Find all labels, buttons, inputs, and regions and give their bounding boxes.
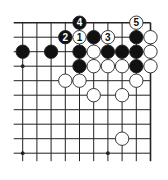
stone-disc <box>101 59 114 72</box>
stone-disc <box>73 74 86 87</box>
white-stone <box>115 59 128 72</box>
black-stone <box>73 59 86 72</box>
black-stone <box>87 31 100 44</box>
white-stone <box>115 89 128 102</box>
white-stone <box>87 45 100 58</box>
stone-disc <box>130 59 143 72</box>
stone-disc <box>101 45 114 58</box>
black-stone <box>16 45 29 58</box>
stone-disc <box>144 45 157 58</box>
white-stone-move-5: 5 <box>130 16 143 29</box>
stone-disc <box>144 59 157 72</box>
stone-disc <box>73 45 86 58</box>
white-stone-move-3: 3 <box>101 31 114 44</box>
stone-disc <box>59 74 72 87</box>
stone-disc <box>144 31 157 44</box>
star-point <box>21 64 25 68</box>
stone-disc <box>44 45 57 58</box>
white-stone <box>101 59 114 72</box>
white-stone <box>144 45 157 58</box>
black-stone <box>115 45 128 58</box>
black-stone <box>130 59 143 72</box>
move-number-label: 3 <box>105 32 111 43</box>
stone-disc <box>130 31 143 44</box>
stone-disc <box>87 31 100 44</box>
black-stone-move-4: 4 <box>73 16 86 29</box>
white-stone <box>130 74 143 87</box>
white-stone <box>115 132 128 145</box>
stone-disc <box>87 45 100 58</box>
move-number-label: 4 <box>77 17 83 28</box>
move-number-label: 1 <box>77 32 83 43</box>
black-stone <box>130 45 143 58</box>
stone-disc <box>115 89 128 102</box>
stone-disc <box>130 45 143 58</box>
move-number-label: 2 <box>63 32 69 43</box>
white-stone <box>73 74 86 87</box>
stone-disc <box>16 45 29 58</box>
black-stone <box>101 45 114 58</box>
black-stone-move-2: 2 <box>59 31 72 44</box>
black-stone <box>130 31 143 44</box>
black-stone <box>44 45 57 58</box>
white-stone-move-1: 1 <box>73 31 86 44</box>
stone-disc <box>130 74 143 87</box>
white-stone <box>59 74 72 87</box>
stone-disc <box>115 45 128 58</box>
white-stone <box>144 59 157 72</box>
stone-disc <box>115 59 128 72</box>
star-point <box>21 151 25 155</box>
black-stone <box>73 45 86 58</box>
go-board-diagram: 45213 <box>0 0 168 180</box>
stone-disc <box>87 59 100 72</box>
stone-disc <box>115 132 128 145</box>
move-number-label: 5 <box>134 17 140 28</box>
white-stone <box>87 89 100 102</box>
stone-disc <box>73 59 86 72</box>
white-stone <box>87 59 100 72</box>
white-stone <box>144 31 157 44</box>
star-point <box>106 151 110 155</box>
stone-disc <box>87 89 100 102</box>
